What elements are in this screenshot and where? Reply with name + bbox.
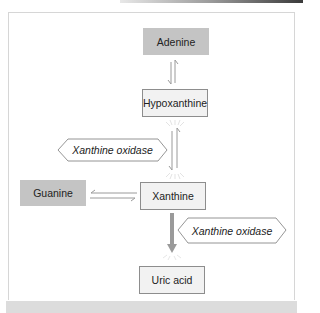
node-xanthine-label: Xanthine [152,190,193,202]
enzyme-label-2: Xanthine oxidase [180,218,284,243]
node-adenine-label: Adenine [157,36,196,48]
node-hypoxanthine-label: Hypoxanthine [143,97,207,109]
starburst-uric [163,255,181,260]
node-adenine: Adenine [143,28,209,55]
node-uric-acid-label: Uric acid [152,274,193,286]
reversible-arrow-adenine-hypoxanthine [168,60,178,84]
node-guanine: Guanine [20,180,86,206]
starburst-top [166,120,184,126]
node-guanine-label: Guanine [33,187,73,199]
enzyme-label-1: Xanthine oxidase [60,139,165,161]
enzyme-label-1-text: Xanthine oxidase [72,144,153,156]
node-hypoxanthine: Hypoxanthine [142,89,208,117]
enzyme-label-2-text: Xanthine oxidase [192,225,273,237]
node-uric-acid: Uric acid [139,266,205,294]
reversible-arrow-hypoxanthine-xanthine [169,128,180,170]
starburst-bottom [166,173,184,179]
reversible-arrow-guanine-xanthine [90,190,137,201]
irreversible-arrow-xanthine-uric-acid [167,213,177,253]
node-xanthine: Xanthine [140,182,206,210]
